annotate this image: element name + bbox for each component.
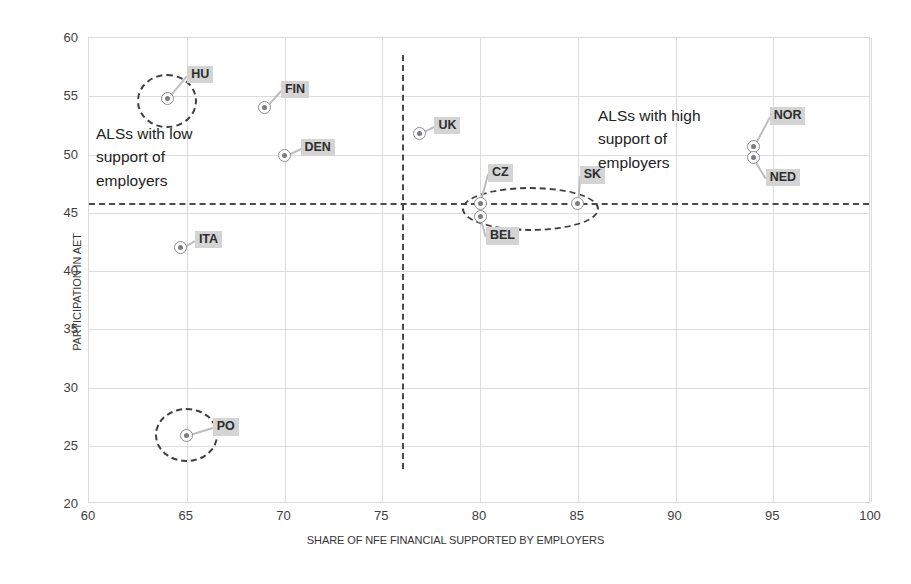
y-tick-label: 55 — [44, 88, 78, 103]
y-tick-label: 50 — [44, 146, 78, 161]
data-point-ned[interactable] — [747, 151, 760, 164]
y-tick-label: 45 — [44, 204, 78, 219]
x-tick-label: 80 — [472, 508, 486, 523]
x-axis-title: SHARE OF NFE FINANCIAL SUPPORTED BY EMPL… — [307, 534, 604, 546]
gridline-vertical — [480, 38, 481, 502]
data-point-ita[interactable] — [174, 241, 187, 254]
x-tick-label: 100 — [859, 508, 881, 523]
data-point-den[interactable] — [278, 149, 291, 162]
scatter-chart: HUFINDENITAPOUKCZBELSKNORNED 60657075808… — [0, 0, 911, 584]
data-point-label-ita: ITA — [195, 231, 222, 248]
data-point-label-nor: NOR — [770, 107, 806, 124]
y-axis-title: PARTICIPATION IN AET — [71, 233, 83, 351]
gridline-horizontal — [89, 96, 869, 97]
gridline-horizontal — [89, 388, 869, 389]
data-point-cz[interactable] — [474, 197, 487, 210]
gridline-vertical — [578, 38, 579, 502]
annotation-low-support: ALSs with low support of employers — [96, 122, 192, 192]
y-tick-label: 30 — [44, 379, 78, 394]
data-point-label-cz: CZ — [488, 164, 513, 181]
x-tick-label: 85 — [570, 508, 584, 523]
data-point-label-den: DEN — [301, 139, 335, 156]
data-point-po[interactable] — [180, 429, 193, 442]
annotation-high-support: ALSs with high support of employers — [598, 104, 701, 174]
x-tick-label: 95 — [765, 508, 779, 523]
reference-line-vertical — [402, 55, 404, 469]
gridline-vertical — [285, 38, 286, 502]
data-point-label-ned: NED — [766, 169, 800, 186]
y-tick-label: 20 — [44, 496, 78, 511]
gridline-vertical — [871, 38, 872, 502]
x-tick-label: 75 — [374, 508, 388, 523]
data-point-label-uk: UK — [434, 117, 460, 134]
plot-area: HUFINDENITAPOUKCZBELSKNORNED — [88, 37, 870, 503]
data-point-label-fin: FIN — [281, 81, 309, 98]
data-point-hu[interactable] — [161, 92, 174, 105]
data-point-label-bel: BEL — [486, 227, 519, 244]
gridline-horizontal — [89, 271, 869, 272]
y-tick-label: 25 — [44, 437, 78, 452]
x-tick-label: 60 — [81, 508, 95, 523]
gridline-vertical — [382, 38, 383, 502]
x-tick-label: 90 — [667, 508, 681, 523]
x-tick-label: 65 — [179, 508, 193, 523]
data-point-label-hu: HU — [187, 66, 213, 83]
gridline-horizontal — [89, 329, 869, 330]
data-point-uk[interactable] — [413, 127, 426, 140]
data-point-bel[interactable] — [474, 210, 487, 223]
data-point-fin[interactable] — [258, 101, 271, 114]
x-tick-label: 70 — [276, 508, 290, 523]
y-tick-label: 60 — [44, 30, 78, 45]
data-point-label-po: PO — [213, 418, 239, 435]
